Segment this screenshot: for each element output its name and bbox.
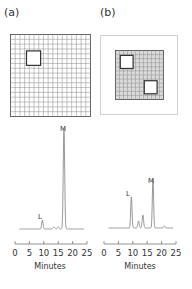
axis-tick-label: 5: [27, 248, 32, 258]
axis-tick-label: 0: [101, 248, 106, 258]
panel-a-x-axis-label: Minutes: [34, 262, 66, 271]
panel-a-grid: [11, 35, 91, 117]
axis-tick-label: 15: [53, 248, 64, 258]
panel-a-x-axis: 0510152025: [12, 241, 92, 258]
axis-tick-label: 10: [127, 248, 138, 258]
axis-tick-label: 0: [12, 248, 17, 258]
chromatogram-trace: [108, 180, 173, 228]
panel-a-label: (a): [4, 6, 19, 19]
axis-tick-label: 10: [38, 248, 49, 258]
vacancy-square: [120, 55, 133, 68]
vacancy-square: [27, 51, 41, 65]
figure: (a) (b) L M L M 0510152025 0510152025 Mi…: [0, 0, 192, 289]
panel-b-peak-label-M: M: [148, 177, 154, 185]
axis-tick-label: 25: [82, 248, 93, 258]
panel-b-label: (b): [100, 6, 116, 19]
panel-b-chromatogram: [108, 180, 173, 228]
chromatogram-trace: [19, 129, 84, 229]
axis-tick-label: 20: [67, 248, 78, 258]
panel-b-x-axis: 0510152025: [101, 241, 181, 258]
panel-a-peak-label-M: M: [60, 125, 66, 133]
panel-b-peak-label-L: L: [126, 190, 130, 198]
axis-tick-label: 25: [171, 248, 182, 258]
panel-a-chromatogram: [19, 129, 84, 229]
axis-tick-label: 20: [156, 248, 167, 258]
axis-tick-label: 5: [116, 248, 121, 258]
panel-a-peak-label-L: L: [38, 213, 42, 221]
panel-b-x-axis-label: Minutes: [124, 262, 156, 271]
vacancy-square: [144, 81, 157, 94]
panel-b-grid: [116, 51, 164, 100]
axis-tick-label: 15: [142, 248, 153, 258]
grid-border: [11, 35, 91, 117]
